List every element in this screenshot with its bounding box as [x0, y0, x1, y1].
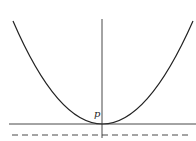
parabola-diagram: p	[0, 0, 196, 141]
point-label: p	[94, 108, 101, 119]
parabola-curve	[13, 21, 193, 124]
diagram-canvas: p	[0, 0, 196, 141]
